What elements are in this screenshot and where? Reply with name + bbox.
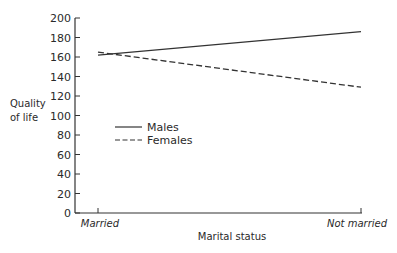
- y-tick-label: 20: [57, 188, 71, 201]
- x-tick-label: Not married: [327, 218, 388, 229]
- series-line-females: [98, 52, 361, 87]
- y-tick-label: 160: [50, 51, 71, 64]
- x-tick-label: Married: [81, 218, 120, 229]
- legend-label: Females: [147, 134, 193, 147]
- y-tick-label: 100: [50, 110, 71, 123]
- legend-label: Males: [147, 121, 179, 134]
- x-axis-title: Marital status: [198, 231, 266, 242]
- series-line-males: [98, 32, 361, 55]
- y-axis-title-line2: of life: [10, 112, 38, 123]
- y-axis-title-line1: Quality: [10, 98, 46, 109]
- y-tick-label: 200: [50, 12, 71, 25]
- y-tick-label: 80: [57, 129, 71, 142]
- y-tick-label: 60: [57, 149, 71, 162]
- y-tick-label: 140: [50, 71, 71, 84]
- legend: MalesFemales: [115, 121, 193, 147]
- line-chart: 020406080100120140160180200 MarriedNot m…: [0, 0, 397, 253]
- y-tick-label: 0: [64, 207, 71, 220]
- series-lines: [98, 32, 361, 88]
- x-axis-ticks: MarriedNot married: [81, 208, 388, 229]
- y-tick-label: 120: [50, 90, 71, 103]
- y-tick-label: 40: [57, 168, 71, 181]
- axes: [75, 18, 362, 213]
- y-tick-label: 180: [50, 32, 71, 45]
